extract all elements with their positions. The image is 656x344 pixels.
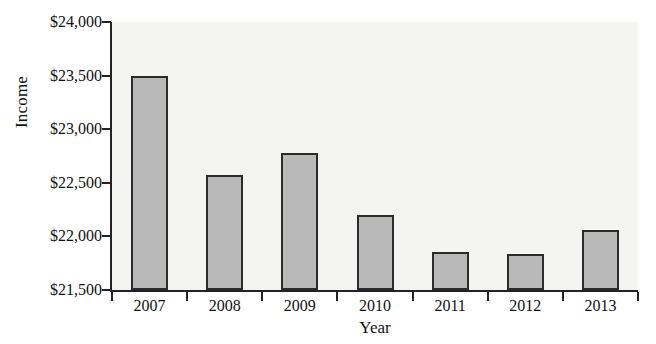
bar: [432, 252, 469, 290]
x-axis-tick-label: 2010: [340, 296, 410, 316]
x-axis-title: Year: [112, 318, 638, 338]
x-axis-tick-label: 2008: [190, 296, 260, 316]
y-axis-tick-label: $23,000: [16, 121, 102, 137]
y-axis-tick-mark: [102, 289, 111, 291]
y-axis-tick-label: $23,500: [16, 68, 102, 84]
bar: [206, 175, 243, 290]
y-axis-tick-label: $24,000: [16, 14, 102, 30]
y-axis-tick-labels: $24,000$23,500$23,000$22,500$22,000$21,5…: [12, 0, 102, 344]
y-axis-tick-mark: [102, 75, 111, 77]
bar: [131, 76, 168, 290]
bar: [582, 230, 619, 290]
bar: [507, 254, 544, 290]
y-axis-tick-mark: [102, 21, 111, 23]
y-axis-tick-mark: [102, 235, 111, 237]
x-axis-line: [110, 290, 638, 292]
x-axis-tick-label: 2009: [265, 296, 335, 316]
y-axis-tick-label: $22,500: [16, 175, 102, 191]
x-axis-tick-labels: 2007200820092010201120122013: [0, 296, 656, 320]
x-axis-tick-label: 2007: [115, 296, 185, 316]
x-axis-tick-label: 2012: [490, 296, 560, 316]
x-axis-tick-label: 2013: [565, 296, 635, 316]
plot-area: [112, 22, 638, 290]
x-axis-tick-label: 2011: [415, 296, 485, 316]
y-axis-tick-mark: [102, 182, 111, 184]
bar: [281, 153, 318, 290]
bar: [357, 215, 394, 290]
y-axis-tick-mark: [102, 128, 111, 130]
bar-chart: Income $24,000$23,500$23,000$22,500$22,0…: [0, 0, 656, 344]
y-axis-line: [110, 22, 112, 292]
y-axis-tick-label: $22,000: [16, 228, 102, 244]
